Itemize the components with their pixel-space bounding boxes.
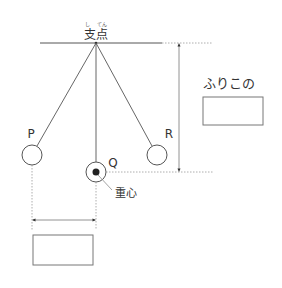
bob-r: [147, 145, 167, 165]
length-prompt-label: ふりこの: [203, 76, 255, 91]
amplitude-arrow-left-icon: [32, 219, 36, 222]
length-arrow-top-icon: [178, 43, 181, 47]
pivot-furigana-shi: し: [85, 21, 90, 27]
pendulum-diagram: し てん 支点 P R Q 重心 ふりこの: [0, 0, 282, 288]
string-p: [37, 43, 96, 146]
center-of-gravity-dot: [93, 169, 100, 176]
pivot-furigana-ten: てん: [97, 21, 107, 28]
amplitude-arrow-right-icon: [93, 219, 97, 222]
length-arrow-bottom-icon: [178, 169, 181, 173]
center-of-gravity-label: 重心: [115, 186, 137, 200]
bob-p: [22, 145, 42, 165]
amplitude-answer-box[interactable]: [33, 235, 93, 265]
string-r: [96, 43, 152, 146]
pivot-label: 支点: [84, 28, 108, 42]
length-answer-box[interactable]: [203, 97, 263, 125]
bob-r-label: R: [165, 127, 173, 141]
bob-p-label: P: [27, 127, 34, 141]
bob-q-label: Q: [108, 156, 117, 170]
